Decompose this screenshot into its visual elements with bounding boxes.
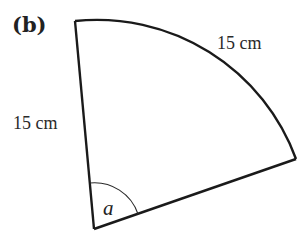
arc-line: [75, 20, 296, 159]
angle-label: a: [103, 196, 114, 221]
arc-length-label: 15 cm: [217, 33, 262, 54]
angle-arc-marker: [90, 183, 138, 214]
sector-diagram: (b) 15 cm 15 cm a: [0, 0, 299, 235]
radius-line-left: [75, 21, 94, 229]
radius-length-label: 15 cm: [13, 113, 58, 134]
part-label: (b): [12, 12, 47, 37]
